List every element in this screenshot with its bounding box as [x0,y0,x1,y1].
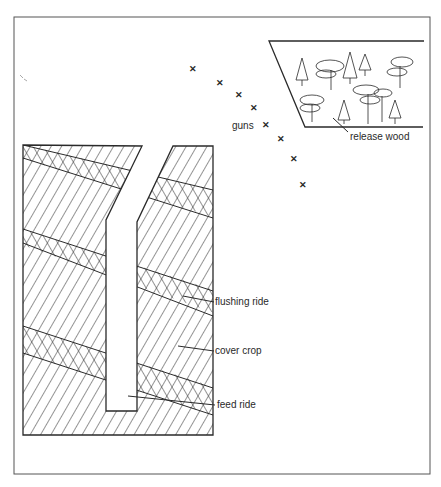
flushing-ride-label: flushing ride [215,297,269,307]
release-wood-label: release wood [350,132,409,142]
gun-marker-icon: ✕ [299,181,307,190]
gun-marker-icon: ✕ [290,155,298,164]
cover-crop-block [0,130,240,450]
diagram-canvas [0,0,441,487]
cover-crop-label: cover crop [215,346,262,356]
gun-marker-icon: ✕ [216,79,224,88]
faint-mark [20,75,27,81]
feed-ride-label: feed ride [217,400,256,410]
tree-icons [296,52,413,124]
gun-marker-icon: ✕ [250,104,258,113]
gun-marker-icon: ✕ [235,91,243,100]
release-wood [269,41,424,127]
guns-label: guns [232,121,254,131]
gun-marker-icon: ✕ [262,121,270,130]
gun-marker-icon: ✕ [277,135,285,144]
gun-marker-icon: ✕ [189,65,197,74]
